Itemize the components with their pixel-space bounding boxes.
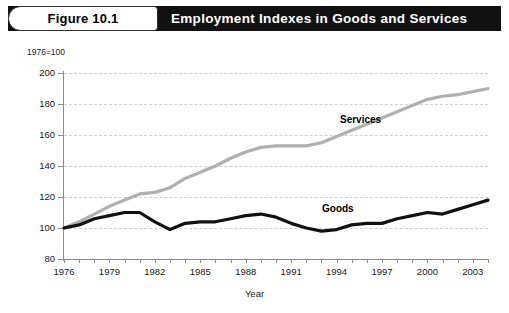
series-plot xyxy=(0,0,509,313)
series-line-services xyxy=(64,89,488,229)
x-axis-title: Year xyxy=(0,288,509,299)
series-label-services: Services xyxy=(340,114,381,125)
series-line-goods xyxy=(64,200,488,231)
chart-region: 1976=100 80100120140160180200 1976197919… xyxy=(0,0,509,313)
series-label-goods: Goods xyxy=(322,203,354,214)
